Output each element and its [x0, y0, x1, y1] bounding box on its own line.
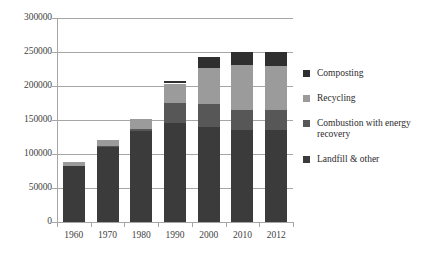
- bar-segment[interactable]: [130, 131, 152, 222]
- legend-swatch-icon: [303, 156, 310, 163]
- bar-segment[interactable]: [231, 110, 253, 130]
- x-axis-tick: [158, 222, 159, 227]
- legend-item[interactable]: Landfill & other: [303, 154, 436, 165]
- bar-stack-2010[interactable]: [231, 18, 253, 222]
- x-axis-tick: [91, 222, 92, 227]
- bar-segment[interactable]: [164, 81, 186, 84]
- bar-segment[interactable]: [130, 129, 152, 131]
- bar-segment[interactable]: [164, 123, 186, 222]
- bar-stack-2012[interactable]: [265, 18, 287, 222]
- x-axis-tick: [226, 222, 227, 227]
- bar-segment[interactable]: [265, 130, 287, 222]
- bar-segment[interactable]: [265, 110, 287, 130]
- y-axis-tick-label: 200000: [4, 81, 52, 91]
- plot-area: [57, 18, 293, 222]
- x-axis-tick: [57, 222, 58, 227]
- bar-stack-1980[interactable]: [130, 18, 152, 222]
- legend-item[interactable]: Composting: [303, 68, 436, 79]
- y-axis-label-group: 050000100000150000200000250000300000: [0, 0, 52, 267]
- bar-segment[interactable]: [231, 52, 253, 66]
- y-axis-tick: [52, 154, 57, 155]
- y-axis-tick-label: 250000: [4, 47, 52, 57]
- bar-stack-1970[interactable]: [97, 18, 119, 222]
- y-axis-tick-label: 150000: [4, 115, 52, 125]
- legend-item[interactable]: Recycling: [303, 93, 436, 104]
- legend-item-label: Composting: [317, 68, 363, 78]
- y-axis-tick-label: 300000: [4, 13, 52, 23]
- stacked-bar-chart: 050000100000150000200000250000300000 Com…: [0, 0, 436, 267]
- x-axis-tick: [192, 222, 193, 227]
- y-axis-tick: [52, 18, 57, 19]
- y-axis-tick: [52, 86, 57, 87]
- bar-segment[interactable]: [265, 52, 287, 66]
- legend-swatch-icon: [303, 120, 310, 127]
- legend-item[interactable]: Combustion with energy recovery: [303, 118, 436, 140]
- y-axis-tick-label: 0: [4, 217, 52, 227]
- legend-item-label: Landfill & other: [317, 154, 379, 164]
- y-axis-tick-label: 50000: [4, 183, 52, 193]
- bar-segment[interactable]: [164, 103, 186, 123]
- legend-item-label: Combustion with energy recovery: [317, 118, 411, 139]
- bar-segment[interactable]: [198, 68, 220, 104]
- bar-segment[interactable]: [198, 104, 220, 127]
- bar-stack-1960[interactable]: [63, 18, 85, 222]
- bar-segment[interactable]: [198, 57, 220, 68]
- bar-stack-2000[interactable]: [198, 18, 220, 222]
- y-axis-tick: [52, 188, 57, 189]
- bar-segment[interactable]: [63, 162, 85, 166]
- x-axis-tick-label: 2012: [256, 231, 296, 241]
- legend-swatch-icon: [303, 95, 310, 102]
- bar-segment[interactable]: [130, 119, 152, 129]
- bar-segment[interactable]: [231, 130, 253, 222]
- chart-legend: CompostingRecyclingCombustion with energ…: [303, 68, 436, 179]
- x-axis-tick: [293, 222, 294, 227]
- bar-segment[interactable]: [265, 66, 287, 110]
- y-axis-tick: [52, 120, 57, 121]
- bar-segment[interactable]: [97, 140, 119, 145]
- bar-segment[interactable]: [63, 166, 85, 222]
- y-axis-tick-label: 100000: [4, 149, 52, 159]
- bar-segment[interactable]: [97, 146, 119, 222]
- bar-segment[interactable]: [198, 127, 220, 222]
- x-axis-tick: [124, 222, 125, 227]
- legend-item-label: Recycling: [317, 93, 356, 103]
- y-axis-tick: [52, 52, 57, 53]
- bar-segment[interactable]: [164, 84, 186, 104]
- legend-swatch-icon: [303, 70, 310, 77]
- x-axis-tick: [259, 222, 260, 227]
- bar-stack-1990[interactable]: [164, 18, 186, 222]
- bar-segment[interactable]: [231, 65, 253, 109]
